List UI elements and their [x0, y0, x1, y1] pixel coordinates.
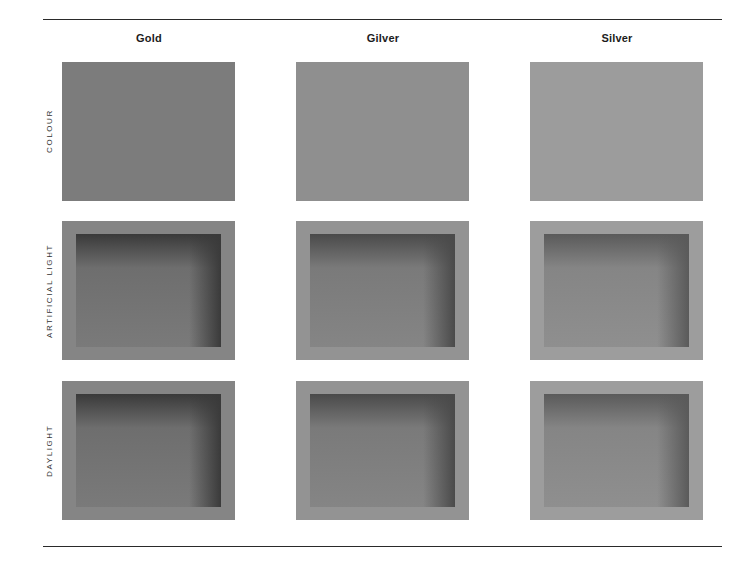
recess-shadow — [310, 234, 455, 347]
daylight-sample-gilver — [296, 381, 469, 520]
colour-swatch-gold — [62, 62, 235, 201]
daylight-sample-gold — [62, 381, 235, 520]
colour-swatch-silver — [530, 62, 703, 201]
column-header-gilver: Gilver — [296, 32, 470, 44]
artificial-light-sample-silver — [530, 221, 703, 360]
artificial-light-sample-gilver — [296, 221, 469, 360]
recess-shadow — [76, 234, 221, 347]
recess-shadow — [544, 234, 689, 347]
bottom-divider — [43, 546, 722, 547]
daylight-sample-silver — [530, 381, 703, 520]
recess-shadow — [76, 394, 221, 507]
recess-shadow — [310, 394, 455, 507]
top-divider — [43, 19, 722, 20]
recess-shadow — [544, 394, 689, 507]
column-header-silver: Silver — [530, 32, 704, 44]
colour-swatch-gilver — [296, 62, 469, 201]
artificial-light-sample-gold — [62, 221, 235, 360]
column-header-gold: Gold — [62, 32, 236, 44]
